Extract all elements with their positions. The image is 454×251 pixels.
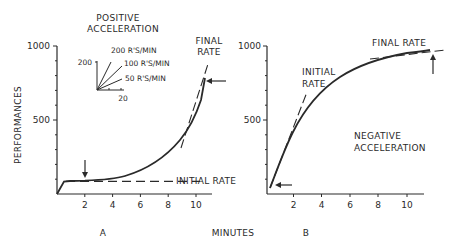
panel-a-xtick-2: 2 — [82, 200, 88, 210]
x-axis-label: MINUTES — [212, 228, 255, 238]
panel-b-xtick-8: 8 — [375, 200, 381, 210]
panel-b-xtick-4: 4 — [319, 200, 325, 210]
panel-a-xtick-8: 8 — [165, 200, 171, 210]
panel-b: 1000 500 2 4 6 8 10 FINAL RATE INITIAL R… — [238, 38, 445, 238]
panel-a-inset: 200 20 200 R'S/MIN 100 R'S/MIN 50 R'S/MI… — [78, 46, 170, 103]
figure: PERFORMANCES 1000 500 2 4 6 8 10 — [0, 0, 454, 251]
panel-a-label: A — [100, 228, 107, 238]
panel-a-final-rate-line — [181, 64, 208, 148]
panel-b-arrow-left-icon — [275, 182, 292, 188]
panel-b-label: B — [303, 228, 309, 238]
inset-ytick-200: 200 — [78, 58, 93, 67]
panel-a-ytick-500: 500 — [33, 115, 50, 125]
panel-a-title-line1: POSITIVE — [96, 13, 139, 23]
panel-b-arrow-up-icon — [430, 54, 436, 74]
panel-a-title-line2: ACCELERATION — [87, 24, 159, 34]
panel-b-xtick-2: 2 — [291, 200, 297, 210]
panel-b-negative-label-1: NEGATIVE — [354, 131, 401, 141]
panel-a-final-rate-label-2: RATE — [197, 47, 221, 57]
panel-a-initial-rate-label: INITIAL RATE — [176, 176, 236, 186]
inset-label-100: 100 R'S/MIN — [124, 59, 170, 68]
panel-a-xtick-10: 10 — [190, 200, 202, 210]
panel-b-xtick-6: 6 — [347, 200, 353, 210]
panel-a: 1000 500 2 4 6 8 10 POSITIVE ACCELERATIO… — [27, 13, 236, 238]
inset-xtick-20: 20 — [118, 94, 128, 103]
y-axis-label: PERFORMANCES — [13, 86, 23, 164]
panel-b-curve — [270, 50, 430, 188]
panel-b-ytick-500: 500 — [244, 115, 261, 125]
panel-a-final-rate-label-1: FINAL — [195, 36, 222, 46]
panel-b-final-rate-label: FINAL RATE — [372, 38, 426, 48]
panel-a-arrow-left-icon — [206, 78, 226, 84]
panel-b-initial-rate-label-1: INITIAL — [302, 67, 335, 77]
inset-label-50: 50 R'S/MIN — [125, 74, 166, 83]
panel-b-negative-label-2: ACCELERATION — [354, 143, 426, 153]
inset-label-200: 200 R'S/MIN — [111, 46, 157, 55]
panel-a-xtick-6: 6 — [138, 200, 144, 210]
panel-b-initial-rate-label-2: RATE — [302, 79, 326, 89]
panel-a-ytick-1000: 1000 — [27, 41, 50, 51]
panel-b-ytick-1000: 1000 — [238, 41, 261, 51]
panel-b-xtick-10: 10 — [401, 200, 413, 210]
panel-a-xtick-4: 4 — [110, 200, 116, 210]
panel-a-arrow-down-icon — [82, 160, 88, 178]
